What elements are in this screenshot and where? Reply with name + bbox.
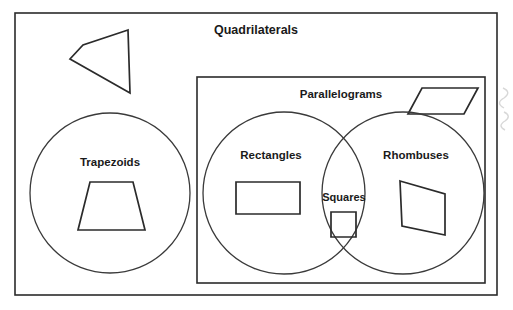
generic-quadrilateral-example-shape <box>70 30 130 93</box>
set-label-rhombuses: Rhombuses <box>383 149 449 161</box>
set-boundary-parallelograms <box>197 77 485 283</box>
set-label-rectangles: Rectangles <box>240 149 301 161</box>
quadrilaterals-euler-diagram: Quadrilaterals Parallelograms Trapezoids… <box>0 0 513 310</box>
rectangle-example-shape <box>236 182 300 214</box>
rhombus-example-shape <box>400 181 445 235</box>
parallelogram-example-shape <box>408 88 478 114</box>
set-label-parallelograms: Parallelograms <box>300 88 382 100</box>
euler-diagram-container: Quadrilaterals Parallelograms Trapezoids… <box>0 0 513 310</box>
set-boundary-trapezoids <box>30 113 190 273</box>
trapezoid-example-shape <box>78 182 145 230</box>
set-label-trapezoids: Trapezoids <box>80 156 140 168</box>
scan-artifact-marks <box>500 88 509 130</box>
set-label-quadrilaterals: Quadrilaterals <box>214 23 298 37</box>
set-label-squares: Squares <box>322 191 365 203</box>
square-example-shape <box>331 212 356 237</box>
